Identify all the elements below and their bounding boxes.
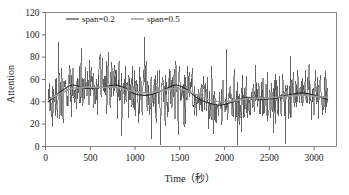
y-tick-label: 60 — [30, 75, 40, 85]
legend-label-1: span=0.5 — [147, 14, 180, 24]
attention-time-chart: 020406080100120 050010001500200025003000… — [0, 0, 349, 195]
y-tick-label: 0 — [35, 142, 40, 152]
x-tick-label: 2500 — [260, 153, 279, 163]
y-tick-label: 100 — [25, 30, 40, 40]
x-axis-title: Time（秒） — [165, 172, 216, 184]
x-tick-label: 500 — [83, 153, 98, 163]
y-axis-title: Attention — [5, 65, 16, 103]
x-tick-label: 3000 — [305, 153, 324, 163]
x-tick-label: 0 — [43, 153, 48, 163]
y-tick-label: 80 — [30, 52, 40, 62]
x-tick-label: 2000 — [215, 153, 234, 163]
legend-label-0: span=0.2 — [82, 14, 115, 24]
y-tick-label: 120 — [25, 8, 40, 18]
x-tick-label: 1500 — [170, 153, 189, 163]
chart-figure: 020406080100120 050010001500200025003000… — [0, 0, 349, 195]
y-tick-label: 20 — [30, 119, 40, 129]
x-tick-label: 1000 — [126, 153, 145, 163]
y-tick-label: 40 — [30, 97, 40, 107]
